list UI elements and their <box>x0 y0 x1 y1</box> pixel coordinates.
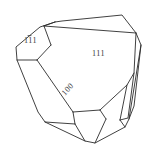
label-face-111-bar: 111 <box>24 36 37 45</box>
label-face-111: 111 <box>92 49 105 58</box>
label-face-111-bar-group: 111 <box>24 36 37 45</box>
crystal-morphology-figure: 111 111 100 <box>0 0 156 154</box>
crystal-drawing: 111 111 100 <box>0 0 156 154</box>
